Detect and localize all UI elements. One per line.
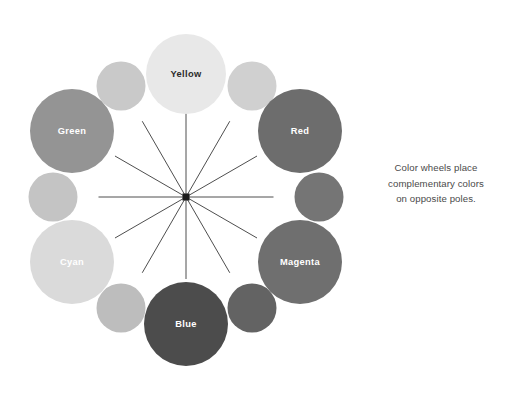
color-node-cyan[interactable] [30,220,114,304]
blend-node-11[interactable] [97,62,146,111]
caption-line-3: on opposite poles. [370,191,502,207]
caption-text: Color wheels placecomplementary colorson… [370,160,502,207]
spoke-blend-1 [186,121,230,197]
spoke-blend-7 [142,197,186,273]
caption-line-2: complementary colors [370,176,502,192]
spoke-blend-11 [142,121,186,197]
spoke-blend-5 [186,197,230,273]
figure-canvas: YellowRedMagentaBlueCyanGreen Color whee… [0,0,508,394]
spoke-red [186,156,257,197]
color-node-yellow[interactable] [146,34,226,114]
blend-node-9[interactable] [29,173,78,222]
spoke-magenta [186,197,257,238]
spoke-green [115,156,186,197]
blend-node-7[interactable] [97,284,146,333]
color-wheel-diagram: YellowRedMagentaBlueCyanGreen [0,0,380,394]
blend-node-5[interactable] [228,284,277,333]
color-node-green[interactable] [30,89,114,173]
center-hub [183,194,190,201]
color-node-red[interactable] [258,89,342,173]
caption-line-1: Color wheels place [370,160,502,176]
color-node-magenta[interactable] [258,220,342,304]
spoke-cyan [115,197,186,238]
blend-node-3[interactable] [295,173,344,222]
color-node-blue[interactable] [144,282,228,366]
